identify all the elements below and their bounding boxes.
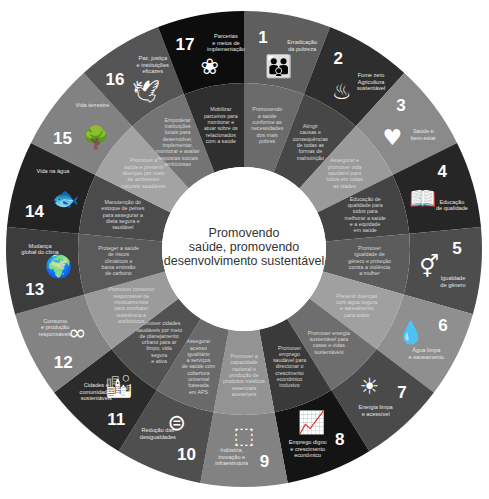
goal-number: 2 bbox=[334, 49, 343, 68]
goal-health-action-text: Mobilizarparceiros paramonitorar eatuar … bbox=[204, 106, 238, 144]
goal-number: 4 bbox=[438, 162, 448, 181]
dove-icon: 🕊 bbox=[132, 79, 160, 104]
growth-chart-icon: 📈 bbox=[298, 410, 325, 435]
infinity-icon: ∞ bbox=[68, 320, 86, 345]
goal-title: Vida terrestre bbox=[76, 102, 109, 108]
sdg-health-wheel: 1Erradicaçãoda pobreza👪Promovendoa saúde… bbox=[0, 0, 489, 499]
goal-title: Erradicaçãoda pobreza bbox=[287, 39, 317, 52]
goal-title: Vida na água bbox=[37, 168, 71, 174]
water-drop-icon: 💧 bbox=[397, 320, 424, 345]
goal-number: 1 bbox=[258, 28, 267, 47]
goal-number: 13 bbox=[25, 280, 44, 299]
city-buildings-icon: 🏙 bbox=[105, 374, 133, 399]
heartbeat-icon: ♥ bbox=[383, 125, 403, 150]
goal-number: 3 bbox=[396, 96, 405, 115]
partnership-rings-icon: ❀ bbox=[201, 54, 219, 79]
goal-number: 8 bbox=[335, 430, 344, 449]
goal-title: Fome zeroAgriculturasustentável bbox=[357, 72, 385, 91]
fish-icon: 🐟 bbox=[52, 186, 79, 211]
book-icon: 📖 bbox=[409, 186, 436, 211]
goal-number: 15 bbox=[53, 129, 72, 148]
goal-number: 9 bbox=[260, 452, 269, 471]
goal-number: 7 bbox=[397, 383, 406, 402]
goal-number: 14 bbox=[25, 202, 44, 221]
goal-title: Água limpae saneamento bbox=[409, 347, 444, 360]
goal-number: 17 bbox=[176, 35, 195, 54]
sun-power-icon: ☀ bbox=[359, 374, 379, 399]
goal-title: Consumoe produçãoresponsáveis bbox=[39, 318, 72, 337]
goal-number: 12 bbox=[54, 353, 73, 372]
goal-title: Emprego dignoe crescimentoeconômico bbox=[289, 439, 327, 458]
equality-circle-icon: ⊜ bbox=[168, 410, 186, 435]
goal-number: 10 bbox=[177, 445, 196, 464]
goal-number: 11 bbox=[107, 410, 125, 429]
tree-icon: 🌳 bbox=[82, 124, 109, 150]
bowl-icon: ♨ bbox=[332, 79, 352, 104]
family-icon: 👪 bbox=[265, 54, 292, 79]
goal-title: Energia limpae acessível bbox=[359, 404, 394, 417]
goal-number: 6 bbox=[438, 316, 447, 335]
earth-eye-icon: 🌍 bbox=[45, 254, 72, 279]
goal-number: 16 bbox=[106, 70, 125, 89]
cubes-icon: ⬚ bbox=[234, 423, 255, 448]
goal-title: Educaçãode qualidade bbox=[436, 199, 468, 212]
goal-number: 5 bbox=[452, 239, 461, 258]
goal-title: Igualdadede gênero bbox=[440, 275, 465, 288]
gender-equality-icon: ⚥ bbox=[419, 253, 439, 279]
goal-title: Saúde ebem-estar bbox=[411, 128, 436, 141]
